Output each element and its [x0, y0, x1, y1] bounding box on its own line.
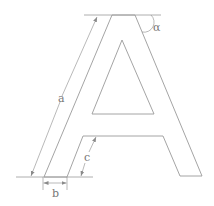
dimension-c-line-upper — [89, 137, 96, 152]
label-alpha: α — [153, 21, 161, 34]
label-a: a — [58, 92, 65, 105]
letter-a-counter-triangle — [92, 40, 154, 114]
label-b: b — [52, 187, 59, 200]
dimension-c-line-lower — [81, 163, 85, 176]
dimension-a-line-lower — [31, 102, 60, 176]
letter-a-dimension-diagram: a c b α — [0, 0, 214, 206]
dimension-a-line — [62, 17, 97, 96]
letter-a-outline — [44, 15, 202, 177]
label-c: c — [84, 151, 90, 164]
